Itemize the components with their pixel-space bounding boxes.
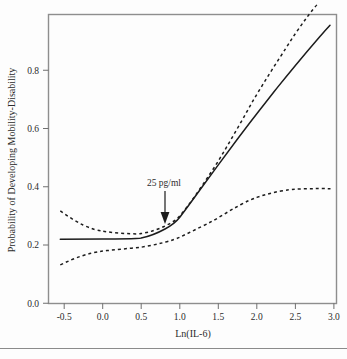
x-tick-label: 0.5 [135,312,147,322]
plot-frame [49,15,337,304]
x-tick-label: 2.0 [251,312,263,322]
x-tick-label: 1.0 [174,312,186,322]
x-axis-title: Ln(IL-6) [175,328,211,340]
y-tick-label: 0.0 [27,299,39,309]
y-tick-label: 0.8 [27,66,39,76]
x-tick-label: 3.0 [328,312,340,322]
upper-confidence-curve [60,4,318,234]
y-axis: 0.8 0.6 0.4 0.2 0.0 [27,66,48,309]
y-tick-label: 0.2 [27,240,39,250]
y-tick-label: 0.6 [27,124,39,134]
x-tick-label: 2.5 [289,312,301,322]
y-tick-label: 0.4 [27,182,39,192]
figure-container: 0.8 0.6 0.4 0.2 0.0 Probability of Devel… [0,0,347,359]
annotation-label: 25 pg/ml [147,178,181,188]
x-axis: -0.5 0.0 0.5 1.0 1.5 2.0 2.5 3.0 [57,303,340,322]
y-axis-title: Probability of Developing Mobility-Disab… [6,68,17,253]
x-tick-label: 1.5 [212,312,224,322]
lower-confidence-curve [60,189,330,265]
x-tick-label: 0.0 [97,312,109,322]
down-arrow-icon [161,212,170,224]
probability-curve-chart: 0.8 0.6 0.4 0.2 0.0 Probability of Devel… [0,0,347,359]
annotation-25-pg-ml: 25 pg/ml [147,178,181,224]
x-tick-label: -0.5 [57,312,72,322]
estimate-curve [60,25,330,239]
